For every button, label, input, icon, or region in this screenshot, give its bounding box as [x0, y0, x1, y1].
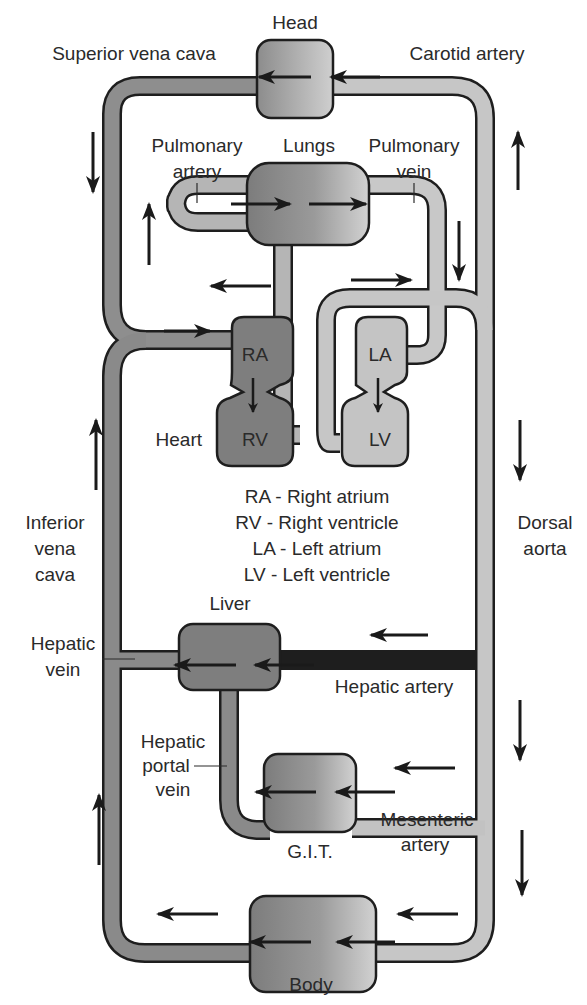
- head-label: Head: [272, 12, 317, 33]
- legend-line-4: LV - Left ventricle: [244, 564, 390, 585]
- inferior-vena-cava-label-3: cava: [35, 564, 76, 585]
- la-label: LA: [368, 344, 392, 365]
- legend-line-1: RA - Right atrium: [245, 486, 390, 507]
- inferior-vena-cava-label-1: Inferior: [25, 512, 85, 533]
- legend-line-3: LA - Left atrium: [253, 538, 382, 559]
- dorsal-aorta-label-2: aorta: [523, 538, 567, 559]
- legend-line-2: RV - Right ventricle: [235, 512, 398, 533]
- ra-label: RA: [242, 344, 269, 365]
- pulmonary-artery-label-2: artery: [173, 161, 222, 182]
- rv-label: RV: [242, 429, 268, 450]
- pulmonary-vein-label-1: Pulmonary: [369, 135, 460, 156]
- hepatic-vein-label-2: vein: [46, 659, 81, 680]
- hepatic-portal-vein-label-2: portal: [142, 755, 190, 776]
- lungs-label: Lungs: [283, 135, 335, 156]
- dorsal-aorta-label-1: Dorsal: [518, 512, 573, 533]
- circulatory-system-diagram: Head Superior vena cava Carotid artery P…: [0, 0, 587, 1005]
- inferior-vena-cava-label-2: vena: [34, 538, 76, 559]
- mesenteric-artery-label-2: artery: [401, 834, 450, 855]
- hepatic-portal-vein-label-3: vein: [156, 779, 191, 800]
- hepatic-portal-vein-label-1: Hepatic: [141, 731, 205, 752]
- liver-label: Liver: [209, 593, 251, 614]
- liver-organ: [179, 624, 280, 690]
- superior-vena-cava-label: Superior vena cava: [52, 43, 216, 64]
- lv-label: LV: [369, 429, 391, 450]
- mesenteric-artery-label-1: Mesenteric: [381, 809, 474, 830]
- body-label: Body: [289, 974, 333, 995]
- head-organ: [257, 40, 333, 118]
- hepatic-vein-label-1: Hepatic: [31, 633, 95, 654]
- pulmonary-vein-label-2: vein: [397, 161, 432, 182]
- hepatic-artery-label: Hepatic artery: [335, 676, 454, 697]
- git-label: G.I.T.: [287, 841, 332, 862]
- heart-label: Heart: [156, 429, 203, 450]
- carotid-artery-label: Carotid artery: [409, 43, 525, 64]
- pulmonary-artery-label-1: Pulmonary: [152, 135, 243, 156]
